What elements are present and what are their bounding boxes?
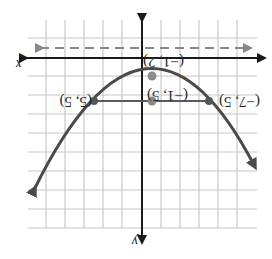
parabola-curve [34, 68, 254, 190]
vertex-point [148, 72, 157, 81]
y-axis-label: y [131, 234, 140, 249]
parabola-graph: (−1, 2) (−1, 5) (5, 5) (−7, 5) x y [0, 0, 272, 259]
label-vertex: (−1, 2) [143, 53, 184, 70]
x-axis-label: x [15, 57, 23, 72]
label-neg1-5: (−1, 5) [147, 87, 188, 104]
label-neg7-5: (−7, 5) [219, 93, 260, 110]
point-neg7-5 [205, 97, 213, 105]
label-5-5: (5, 5) [60, 93, 93, 110]
